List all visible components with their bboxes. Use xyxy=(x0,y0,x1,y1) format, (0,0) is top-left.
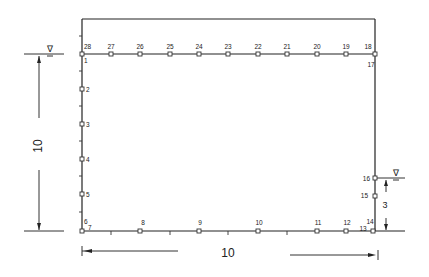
node-label: 3 xyxy=(86,121,90,128)
height-dimension-label: 10 xyxy=(31,139,45,153)
node-2 xyxy=(80,87,84,91)
node-21 xyxy=(285,52,289,56)
node-label: 1 xyxy=(84,57,88,64)
node-15 xyxy=(373,194,377,198)
water-level-icon: ∇ xyxy=(46,44,54,54)
node-25 xyxy=(168,52,172,56)
node-18 xyxy=(373,52,377,56)
tailwater-dimension-label: 3 xyxy=(382,200,387,210)
node-26 xyxy=(138,52,142,56)
width-dimension-label: 10 xyxy=(221,246,235,260)
node-label: 10 xyxy=(255,219,263,226)
node-label: 14 xyxy=(366,218,374,225)
node-label: 12 xyxy=(343,219,351,226)
node-label: 7 xyxy=(88,224,92,231)
node-label: 19 xyxy=(342,43,350,50)
node-13 xyxy=(371,229,375,233)
node-6 xyxy=(80,229,84,233)
node-label: 11 xyxy=(315,219,322,226)
node-label: 8 xyxy=(141,219,145,226)
node-label: 2 xyxy=(86,86,90,93)
node-label: 15 xyxy=(361,192,369,199)
node-11 xyxy=(315,229,319,233)
node-label: 20 xyxy=(313,43,321,50)
node-label: 9 xyxy=(198,219,202,226)
upstream-water-level: ∇ xyxy=(24,44,64,56)
node-label: 25 xyxy=(166,43,174,50)
node-16 xyxy=(373,176,377,180)
node-label: 27 xyxy=(107,43,115,50)
node-label: 22 xyxy=(254,43,262,50)
node-label: 23 xyxy=(224,43,232,50)
downstream-water-level: ∇ 3 xyxy=(375,168,405,230)
node-label: 21 xyxy=(283,43,291,50)
node-label: 16 xyxy=(363,175,371,182)
node-label: 24 xyxy=(195,43,203,50)
node-22 xyxy=(256,52,260,56)
node-24 xyxy=(197,52,201,56)
node-8 xyxy=(138,229,142,233)
width-dimension: 10 xyxy=(82,246,378,260)
height-dimension: 10 xyxy=(24,56,64,231)
node-3 xyxy=(80,122,84,126)
seepage-diagram: ∇ 10 10 ∇ 3 28 27 26 xyxy=(0,0,429,277)
node-28 xyxy=(80,52,84,56)
node-label: 17 xyxy=(367,61,375,68)
node-9 xyxy=(197,229,201,233)
node-19 xyxy=(344,52,348,56)
node-5 xyxy=(80,192,84,196)
node-label: 5 xyxy=(86,191,90,198)
node-label: 26 xyxy=(136,43,144,50)
node-23 xyxy=(226,52,230,56)
node-label: 4 xyxy=(86,156,90,163)
water-level-icon: ∇ xyxy=(392,168,400,178)
node-label: 18 xyxy=(364,43,372,50)
node-20 xyxy=(315,52,319,56)
node-10 xyxy=(256,229,260,233)
node-label: 28 xyxy=(84,43,92,50)
node-27 xyxy=(109,52,113,56)
node-label: 13 xyxy=(359,225,367,232)
node-4 xyxy=(80,157,84,161)
node-12 xyxy=(344,229,348,233)
